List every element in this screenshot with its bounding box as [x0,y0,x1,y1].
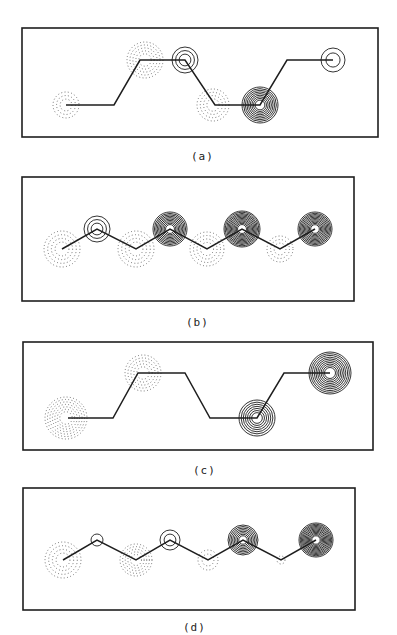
panel-b [22,177,354,301]
panel-d [23,488,355,610]
panel-c [23,342,373,450]
panel-a [22,28,378,137]
carbon-chain-backbone [66,60,333,105]
carbon-chain-backbone [62,229,315,249]
panel-label-c: (c) [193,464,216,477]
panel-label-d: (d) [183,621,206,634]
panel-label-b: (b) [186,316,209,329]
carbon-chain-backbone [68,373,330,418]
panel-label-a: (a) [191,150,214,163]
carbon-chain-backbone [63,540,316,560]
panel-frame [23,488,355,610]
